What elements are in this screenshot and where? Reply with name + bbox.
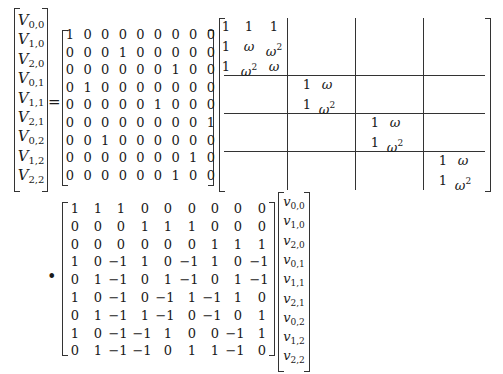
rhs-vector-entry: v2,0 <box>274 234 314 252</box>
coefficient-matrix-cell: 1 <box>137 220 153 234</box>
rhs-vector-entry: v2,2 <box>274 349 314 367</box>
permutation-matrix-cell: 0 <box>185 98 201 112</box>
permutation-matrix-cell: 1 <box>80 81 96 95</box>
permutation-matrix-cell: 0 <box>150 116 166 130</box>
coefficient-matrix-cell: −1 <box>107 255 129 269</box>
coefficient-matrix-cell: 1 <box>230 238 246 252</box>
block3-cell: 1 <box>367 136 383 150</box>
permutation-matrix-cell: 0 <box>97 116 113 130</box>
permutation-matrix-cell: 0 <box>150 81 166 95</box>
coefficient-matrix-cell: 1 <box>207 344 223 358</box>
permutation-matrix-cell: 0 <box>62 169 78 183</box>
permutation-matrix-cell: 0 <box>115 63 131 77</box>
permutation-matrix-cell: 0 <box>185 46 201 60</box>
permutation-matrix-cell: 0 <box>115 81 131 95</box>
block2-cell: 1 <box>299 78 315 92</box>
permutation-matrix-cell: 0 <box>115 98 131 112</box>
coefficient-matrix-cell: 1 <box>184 220 200 234</box>
coefficient-matrix-cell: 1 <box>67 202 83 216</box>
coefficient-matrix-cell: 0 <box>113 238 129 252</box>
permutation-matrix-cell: 0 <box>203 63 219 77</box>
coefficient-matrix-cell: 0 <box>207 273 223 287</box>
permutation-matrix-cell: 0 <box>203 134 219 148</box>
coefficient-matrix-cell: −1 <box>154 309 176 323</box>
multiplication-bullet: • <box>47 267 56 286</box>
coefficient-matrix-cell: 0 <box>90 255 106 269</box>
coefficient-matrix-cell: 0 <box>90 220 106 234</box>
permutation-matrix-cell: 0 <box>150 151 166 165</box>
coefficient-matrix-cell: 1 <box>137 309 153 323</box>
coefficient-matrix-cell: 1 <box>67 327 83 341</box>
coefficient-matrix-cell: 1 <box>230 291 246 305</box>
permutation-matrix-cell: 0 <box>168 28 184 42</box>
block1-cell: ω <box>239 40 259 54</box>
permutation-matrix-cell: 0 <box>185 134 201 148</box>
permutation-matrix-cell: 1 <box>203 116 219 130</box>
coefficient-matrix-cell: 1 <box>207 255 223 269</box>
rhs-vector-entry: v1,0 <box>274 214 314 232</box>
coefficient-matrix-cell: 1 <box>207 238 223 252</box>
permutation-matrix-cell: 0 <box>132 63 148 77</box>
coefficient-matrix-cell: 1 <box>184 291 200 305</box>
coefficient-matrix-cell: 1 <box>67 255 83 269</box>
permutation-matrix-cell: 0 <box>185 116 201 130</box>
permutation-matrix-cell: 0 <box>150 134 166 148</box>
permutation-matrix-cell: 0 <box>132 81 148 95</box>
lhs-vector-entry: V0,2 <box>11 128 51 149</box>
block1-cell: ω2 <box>239 60 259 79</box>
block1-cell: 1 <box>218 60 234 74</box>
permutation-matrix-cell: 0 <box>132 98 148 112</box>
block3-cell: ω2 <box>385 136 405 155</box>
permutation-matrix-cell: 0 <box>115 169 131 183</box>
coefficient-matrix-cell: 0 <box>207 202 223 216</box>
coefficient-matrix-cell: 0 <box>254 202 270 216</box>
coefficient-matrix-cell: 1 <box>160 327 176 341</box>
coefficient-matrix-cell: −1 <box>154 291 176 305</box>
coefficient-matrix-cell: 0 <box>137 202 153 216</box>
coefficient-matrix-cell: 0 <box>67 238 83 252</box>
coefficient-matrix-cell: 1 <box>90 309 106 323</box>
block1-cell: 1 <box>218 40 234 54</box>
block-divider-v1 <box>287 18 288 190</box>
coefficient-matrix-cell: 0 <box>137 291 153 305</box>
coefficient-matrix-cell: −1 <box>107 309 129 323</box>
coefficient-matrix-cell: −1 <box>131 344 153 358</box>
permutation-matrix-cell: 0 <box>62 116 78 130</box>
equals-sign: = <box>48 93 61 111</box>
lhs-vector-entry: V0,1 <box>11 70 51 91</box>
permutation-matrix-cell: 0 <box>168 98 184 112</box>
permutation-matrix-cell: 0 <box>80 116 96 130</box>
permutation-matrix-cell: 1 <box>168 169 184 183</box>
rhs-vector-entry: v1,2 <box>274 330 314 348</box>
coefficient-matrix-cell: 0 <box>207 220 223 234</box>
coefficient-matrix-cell: 0 <box>160 255 176 269</box>
permutation-matrix-cell: 0 <box>80 134 96 148</box>
block3-cell: ω <box>385 116 405 130</box>
coefficient-matrix-cell: −1 <box>178 255 200 269</box>
coefficient-matrix-cell: 0 <box>230 309 246 323</box>
permutation-matrix-cell: 0 <box>203 81 219 95</box>
coefficient-matrix-cell: 1 <box>90 344 106 358</box>
permutation-matrix-cell: 0 <box>115 151 131 165</box>
rhs-vector-entry: v0,1 <box>274 253 314 271</box>
permutation-matrix-cell: 0 <box>97 151 113 165</box>
permutation-matrix-cell: 1 <box>150 98 166 112</box>
permutation-matrix-cell: 0 <box>80 151 96 165</box>
coefficient-matrix-cell: 1 <box>230 273 246 287</box>
coefficient-matrix-cell: 0 <box>67 273 83 287</box>
block-matrix-right-bracket <box>485 18 491 192</box>
block3-cell: 1 <box>367 116 383 130</box>
permutation-matrix-cell: 0 <box>115 28 131 42</box>
permutation-matrix-cell: 0 <box>80 169 96 183</box>
coefficient-matrix-cell: 0 <box>184 202 200 216</box>
coefficient-matrix-cell: −1 <box>224 327 246 341</box>
coefficient-matrix-cell: 0 <box>160 344 176 358</box>
block1-cell: ω2 <box>264 40 284 59</box>
coefficient-matrix-cell: −1 <box>107 273 129 287</box>
coefficient-matrix-cell: 1 <box>90 202 106 216</box>
coefficient-matrix-cell: −1 <box>107 327 129 341</box>
permutation-matrix-cell: 0 <box>62 98 78 112</box>
block1-cell: 1 <box>218 20 234 34</box>
coefficient-matrix-cell: 1 <box>137 255 153 269</box>
coefficient-matrix-cell: −1 <box>201 309 223 323</box>
